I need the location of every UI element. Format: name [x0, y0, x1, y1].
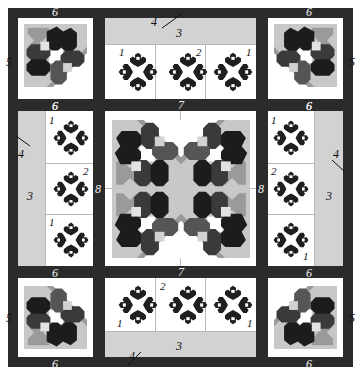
label-left-leader-4: 4: [18, 148, 24, 160]
label-bottom-sashing-7: 7: [178, 266, 184, 278]
quilt-diagram: 6 5 6 6 5 6 6 5 6 6 5 6 4 3 1 2 1 7 7 1 …: [0, 0, 361, 375]
label-left-border-3: 3: [27, 190, 33, 202]
label-corner-bl-side: 5: [6, 312, 12, 324]
label-corner-br-top: 6: [306, 267, 312, 279]
label-left-block-3: 1: [49, 217, 55, 228]
label-corner-tl-top: 6: [52, 6, 58, 18]
label-corner-bl-top: 6: [52, 267, 58, 279]
label-bottom-block-3: 1: [247, 318, 253, 329]
label-left-block-2: 2: [83, 166, 89, 177]
label-top-sashing-7: 7: [178, 99, 184, 111]
label-bottom-leader-4: 4: [129, 350, 135, 362]
label-right-top-6: 6: [306, 100, 312, 112]
label-top-leader-4: 4: [151, 16, 157, 28]
label-right-sashing-8: 8: [258, 183, 264, 195]
label-corner-br-bottom: 6: [306, 358, 312, 370]
label-top-border-3: 3: [176, 27, 182, 39]
label-corner-tr-side: 5: [349, 56, 355, 68]
label-top-block-3: 1: [246, 47, 252, 58]
label-corner-br-side: 5: [349, 312, 355, 324]
label-left-sashing-8: 8: [95, 183, 101, 195]
label-corner-tl-side: 5: [6, 56, 12, 68]
label-bottom-block-2: 2: [160, 281, 166, 292]
label-top-block-2: 2: [196, 47, 202, 58]
label-right-block-2: 2: [271, 166, 277, 177]
label-bottom-block-1: 1: [117, 318, 123, 329]
leader-lines: [0, 0, 361, 375]
label-right-block-3: 1: [303, 251, 309, 262]
label-bottom-border-3: 3: [176, 340, 182, 352]
label-right-block-1: 1: [271, 115, 277, 126]
label-right-border-3: 3: [326, 190, 332, 202]
label-left-top-6: 6: [52, 100, 58, 112]
label-corner-tr-top: 6: [306, 6, 312, 18]
label-top-block-1: 1: [119, 47, 125, 58]
label-corner-bl-bottom: 6: [52, 358, 58, 370]
label-left-block-1: 1: [49, 115, 55, 126]
label-right-leader-4: 4: [333, 148, 339, 160]
